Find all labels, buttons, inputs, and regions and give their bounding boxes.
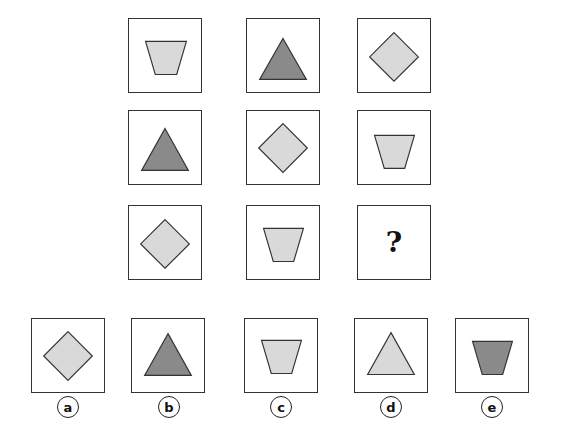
option-e-label[interactable]: e	[481, 396, 503, 418]
trapezoid-icon	[245, 319, 317, 392]
matrix-cell-2	[246, 18, 320, 93]
option-d-label[interactable]: d	[380, 396, 402, 418]
option-d[interactable]	[354, 318, 428, 393]
option-b[interactable]	[131, 318, 205, 393]
option-e[interactable]	[455, 318, 529, 393]
option-c[interactable]	[244, 318, 318, 393]
diamond-icon	[358, 19, 430, 92]
diamond-icon	[129, 206, 201, 279]
matrix-cell-missing: ?	[357, 205, 431, 280]
diamond-icon	[32, 319, 104, 392]
triangle-icon	[247, 19, 319, 92]
question-mark: ?	[358, 206, 430, 279]
diamond-icon	[247, 111, 319, 184]
matrix-cell-5	[246, 110, 320, 185]
matrix-cell-3	[357, 18, 431, 93]
matrix-cell-6	[357, 110, 431, 185]
triangle-icon	[132, 319, 204, 392]
triangle-icon	[129, 111, 201, 184]
matrix-cell-4	[128, 110, 202, 185]
option-a[interactable]	[31, 318, 105, 393]
trapezoid-icon	[129, 19, 201, 92]
trapezoid-icon	[247, 206, 319, 279]
trapezoid-icon	[456, 319, 528, 392]
triangle-icon	[355, 319, 427, 392]
option-c-label[interactable]: c	[270, 396, 292, 418]
matrix-cell-8	[246, 205, 320, 280]
trapezoid-icon	[358, 111, 430, 184]
matrix-cell-7	[128, 205, 202, 280]
option-a-label[interactable]: a	[57, 396, 79, 418]
matrix-cell-1	[128, 18, 202, 93]
option-b-label[interactable]: b	[158, 396, 180, 418]
